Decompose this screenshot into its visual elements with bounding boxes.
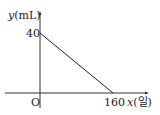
x-axis-label: x(일) [127, 97, 152, 108]
y-tick-40: 40 [26, 28, 40, 39]
data-line [40, 33, 113, 93]
x-tick-160: 160 [104, 97, 125, 108]
y-axis-label: y(mL) [8, 10, 41, 21]
x-unit: (일) [133, 96, 152, 109]
origin-label: O [31, 97, 40, 108]
y-unit: (mL) [14, 9, 40, 22]
x-axis-arrow-icon [145, 92, 149, 95]
